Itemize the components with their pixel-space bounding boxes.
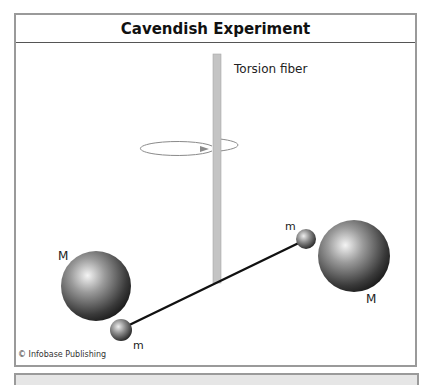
label-small-mass-right: m	[285, 220, 296, 233]
rotation-arrow-icon	[140, 139, 238, 156]
credit-text: © Infobase Publishing	[18, 350, 106, 359]
bottom-panel-strip	[14, 373, 419, 385]
torsion-fiber	[213, 54, 221, 283]
large-mass-left	[61, 251, 131, 321]
label-torsion-fiber: Torsion fiber	[233, 62, 307, 76]
label-small-mass-left: m	[133, 339, 144, 352]
label-large-mass-left: M	[58, 249, 68, 263]
small-mass-right	[296, 229, 316, 249]
large-mass-right	[318, 220, 390, 292]
small-mass-left	[110, 319, 132, 341]
label-large-mass-right: M	[366, 292, 376, 306]
